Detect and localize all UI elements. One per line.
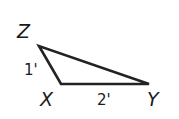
side-label-zx: 1' [24,61,38,79]
triangle-diagram: Z X Y 1' 2' [0,0,179,119]
triangle-xyz [39,46,149,84]
vertex-label-z: Z [16,20,31,42]
vertex-label-y: Y [147,88,160,110]
vertex-label-x: X [39,88,54,110]
side-label-xy: 2' [97,91,111,109]
